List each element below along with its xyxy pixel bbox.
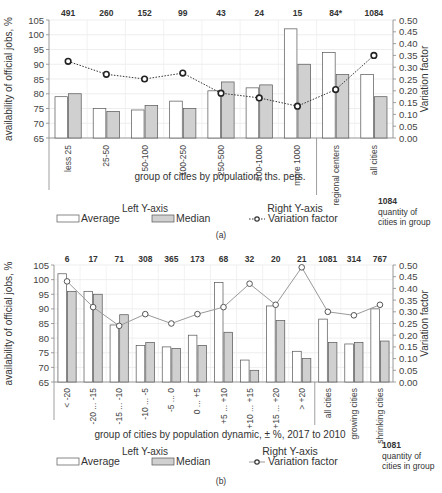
left-tick-label: 90 <box>38 303 49 314</box>
legend-count-note: quantity of <box>382 451 422 461</box>
legend-left-axis-title: Left Y-axis <box>122 203 168 214</box>
category-label: -10 ... -5 <box>140 388 150 420</box>
left-tick-label: 90 <box>33 59 44 70</box>
right-tick-label: 0.05 <box>399 121 418 132</box>
category-label: +5 ... +10 <box>219 388 229 424</box>
figure-caption: (a) <box>216 230 227 240</box>
right-tick-label: 0.00 <box>399 133 418 144</box>
y2-axis-title: Variation factor <box>419 45 430 112</box>
category-label: regional centers <box>331 145 341 205</box>
bar-median <box>250 370 259 382</box>
group-count-label: 6 <box>65 254 70 264</box>
legend-variation-marker <box>255 460 259 464</box>
variation-factor-marker <box>299 265 305 271</box>
left-tick-label: 75 <box>38 347 49 358</box>
bar-average <box>208 91 221 138</box>
variation-factor-marker <box>218 90 224 96</box>
variation-factor-marker <box>116 323 122 329</box>
group-count-label: 173 <box>190 254 204 264</box>
bar-average <box>284 29 297 138</box>
bar-average <box>55 97 68 138</box>
category-label: 25-50 <box>101 145 111 167</box>
bar-median <box>354 343 363 382</box>
variation-factor-marker <box>221 304 227 310</box>
legend-variation-marker <box>255 217 259 221</box>
group-count-label: 20 <box>271 254 281 264</box>
category-label: < -20 <box>62 388 72 408</box>
bar-median <box>380 341 389 382</box>
group-count-label: 71 <box>114 254 124 264</box>
right-tick-label: 0.15 <box>399 341 418 352</box>
variation-factor-marker <box>64 279 70 285</box>
chart-a: 657075808590951001050.000.050.100.150.20… <box>3 8 431 240</box>
right-tick-label: 0.35 <box>399 295 418 306</box>
left-tick-label: 105 <box>28 15 44 26</box>
category-label: all cities <box>323 388 333 418</box>
bar-average <box>319 319 328 382</box>
bar-average <box>371 309 380 382</box>
bar-median <box>198 345 207 382</box>
variation-factor-marker <box>273 302 279 308</box>
left-tick-label: 100 <box>28 29 44 40</box>
left-tick-label: 70 <box>38 362 49 373</box>
group-count-label: 308 <box>138 254 152 264</box>
legend-average-swatch <box>57 458 79 465</box>
left-tick-label: 95 <box>33 44 44 55</box>
legend-count-note: quantity of <box>378 207 418 217</box>
right-tick-label: 0.30 <box>399 62 418 73</box>
right-tick-label: 0.40 <box>399 283 418 294</box>
bar-average <box>345 344 354 382</box>
y2-axis-title: Variation factor <box>419 290 430 357</box>
bar-average <box>110 325 119 382</box>
variation-factor-marker <box>142 76 148 82</box>
left-tick-label: 70 <box>33 118 44 129</box>
bar-median <box>68 291 77 382</box>
category-label: > +20 <box>297 388 307 410</box>
right-tick-label: 0.30 <box>399 306 418 317</box>
figure-caption: (b) <box>216 476 227 486</box>
category-label: all cities <box>369 145 379 175</box>
variation-factor-marker <box>247 281 253 287</box>
variation-factor-marker <box>142 311 148 317</box>
bar-median <box>374 97 387 138</box>
right-tick-label: 0.05 <box>399 365 418 376</box>
bar-average <box>170 101 183 138</box>
y-axis-title: availability of official jobs, % <box>3 17 14 141</box>
variation-factor-marker <box>169 321 175 327</box>
category-label: less 25 <box>63 145 73 172</box>
group-count-label: 32 <box>245 254 255 264</box>
right-tick-label: 0.25 <box>399 318 418 329</box>
group-count-label: 1084 <box>364 8 383 18</box>
left-tick-label: 80 <box>33 88 44 99</box>
legend-count-example: 1081 <box>382 440 401 450</box>
group-count-label: 17 <box>88 254 98 264</box>
group-count-label: 24 <box>254 8 264 18</box>
variation-factor-marker <box>351 313 357 319</box>
right-tick-label: 0.20 <box>399 330 418 341</box>
left-tick-label: 65 <box>33 133 44 144</box>
variation-factor-marker <box>371 53 377 59</box>
legend-median-label: Median <box>176 455 211 467</box>
right-tick-label: 0.00 <box>399 377 418 388</box>
category-label: -20 ... -15 <box>88 388 98 425</box>
bar-average <box>162 347 171 382</box>
bar-median <box>145 106 158 138</box>
bar-median <box>224 332 233 382</box>
legend-median-label: Median <box>176 212 211 224</box>
group-count-label: 767 <box>373 254 387 264</box>
bar-median <box>172 348 181 382</box>
bar-average <box>214 283 223 382</box>
right-tick-label: 0.15 <box>399 97 418 108</box>
bar-median <box>298 64 311 138</box>
x-axis-title: group of cities by population, ths. pers… <box>134 171 305 182</box>
category-label: +15 ... +20 <box>271 388 281 429</box>
variation-factor-marker <box>195 311 201 317</box>
legend-variation-label: Variation factor <box>268 212 338 224</box>
bar-average <box>267 306 276 382</box>
bar-median <box>222 82 235 138</box>
legend-average-label: Average <box>81 212 120 224</box>
legend-average-label: Average <box>81 455 120 467</box>
category-label: growing cities <box>349 388 359 440</box>
legend-median-swatch <box>152 458 174 465</box>
left-tick-label: 80 <box>38 333 49 344</box>
